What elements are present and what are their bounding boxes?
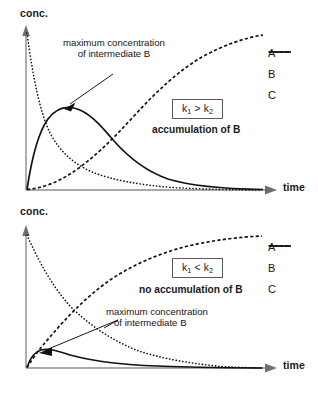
condition-box-top: k1 > k2 — [172, 99, 223, 119]
legend-item-b-top: B — [268, 69, 276, 79]
legend-item-b-bottom: B — [268, 263, 276, 273]
legend-label-b-top: B — [268, 68, 275, 80]
y-axis-arrowhead-top — [22, 25, 30, 36]
x-axis-arrowhead-bottom — [265, 364, 277, 373]
condition-operator-bottom: < — [195, 262, 201, 273]
condition-sub2-top: 2 — [209, 107, 213, 116]
annotation-line2-bottom: of intermediate B — [106, 318, 238, 329]
legend-key-dashed-c-top — [268, 48, 292, 56]
condition-sub2-bottom: 2 — [209, 266, 213, 275]
legend-bottom: A B C — [268, 242, 276, 294]
condition-caption-top: accumulation of B — [152, 124, 240, 135]
y-axis-label-top: conc. — [20, 8, 48, 20]
legend-item-c-bottom: C — [268, 284, 276, 294]
curve-series-b-top — [27, 107, 263, 189]
chart-panel-top: conc. time maximum concentration of inte… — [0, 0, 318, 198]
legend-top: A B C — [268, 48, 276, 100]
x-axis-arrowhead-top — [265, 186, 277, 195]
condition-operator-top: > — [195, 103, 201, 114]
legend-key-dashed-c-bottom — [268, 242, 292, 250]
legend-item-c-top: C — [268, 90, 276, 100]
legend-label-b-bottom: B — [268, 262, 275, 274]
annotation-line2-top: of intermediate B — [48, 49, 180, 60]
x-axis-label-top: time — [283, 182, 305, 194]
y-axis-label-bottom: conc. — [20, 206, 48, 218]
condition-sub1-top: 1 — [187, 107, 191, 116]
plot-area-bottom — [0, 198, 318, 396]
curve-series-a-bottom — [27, 235, 262, 368]
x-axis-label-bottom: time — [283, 360, 305, 372]
condition-sub1-bottom: 1 — [187, 266, 191, 275]
chart-panel-bottom: conc. time maximum concentration of inte… — [0, 198, 318, 396]
annotation-bottom: maximum concentration of intermediate B — [106, 307, 238, 328]
annotation-leader-top — [70, 74, 113, 104]
condition-caption-bottom: no accumulation of B — [139, 284, 243, 295]
condition-box-bottom: k1 < k2 — [172, 258, 223, 278]
y-axis-arrowhead-bottom — [22, 225, 30, 236]
legend-label-c-bottom: C — [268, 283, 276, 295]
curve-series-c-bottom — [27, 236, 262, 368]
legend-label-c-top: C — [268, 89, 276, 101]
annotation-top: maximum concentration of intermediate B — [48, 38, 180, 59]
